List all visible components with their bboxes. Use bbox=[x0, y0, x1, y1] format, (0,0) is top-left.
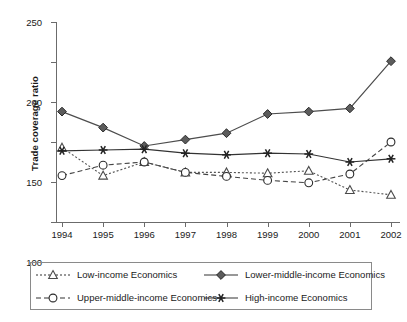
x-tick-label: 2002 bbox=[380, 229, 401, 240]
data-point bbox=[99, 146, 108, 154]
data-point bbox=[222, 151, 231, 159]
x-tick-label: 1997 bbox=[175, 229, 196, 240]
circle-open-icon bbox=[35, 291, 71, 305]
diamond-filled-icon bbox=[203, 268, 239, 282]
legend-label: Lower-middle-income Economics bbox=[245, 269, 385, 280]
legend-item-lower-middle-income-economics[interactable]: Lower-middle-income Economics bbox=[199, 268, 373, 282]
data-point bbox=[217, 270, 226, 279]
data-point bbox=[181, 149, 190, 157]
x-tick-label: 1999 bbox=[257, 229, 278, 240]
plot-area: 050100150200250 199419951996199719981999… bbox=[56, 22, 399, 222]
x-tick-label: 1995 bbox=[93, 229, 114, 240]
data-point bbox=[304, 107, 313, 116]
data-point bbox=[305, 179, 313, 187]
x-tick-label: 1996 bbox=[134, 229, 155, 240]
y-tick-label: 200 bbox=[26, 97, 42, 108]
legend-item-low-income-economics[interactable]: Low-income Economics bbox=[31, 268, 199, 282]
x-tick-label: 1998 bbox=[216, 229, 237, 240]
data-point bbox=[263, 110, 272, 119]
data-point bbox=[140, 158, 148, 166]
data-point bbox=[181, 169, 189, 177]
y-tick-label: 250 bbox=[26, 17, 42, 28]
data-point bbox=[263, 149, 272, 157]
data-point bbox=[304, 150, 313, 158]
data-point bbox=[345, 158, 354, 166]
data-point bbox=[346, 186, 355, 194]
legend-label: Low-income Economics bbox=[77, 269, 177, 280]
data-point bbox=[387, 155, 396, 163]
data-point bbox=[346, 170, 354, 178]
series-layer bbox=[56, 22, 399, 223]
data-point bbox=[99, 123, 108, 132]
data-point bbox=[181, 135, 190, 144]
legend-label: High-income Economics bbox=[245, 292, 347, 303]
data-point bbox=[223, 173, 231, 181]
triangle-open-icon bbox=[35, 268, 71, 282]
data-point bbox=[58, 107, 67, 116]
data-point bbox=[99, 161, 107, 169]
chart-legend: Low-income EconomicsLower-middle-income … bbox=[30, 262, 372, 310]
legend-label: Upper-middle-income Economics bbox=[77, 292, 217, 303]
data-point bbox=[304, 166, 313, 174]
data-point bbox=[387, 138, 395, 146]
data-point bbox=[387, 190, 396, 198]
legend-item-high-income-economics[interactable]: High-income Economics bbox=[199, 291, 373, 305]
asterisk-icon bbox=[203, 291, 239, 305]
y-tick-label: 150 bbox=[26, 177, 42, 188]
data-point bbox=[58, 172, 66, 180]
trade-coverage-ratio-chart: Trade coverage ratio 050100150200250 199… bbox=[0, 0, 407, 322]
data-point bbox=[264, 177, 272, 185]
x-tick-label: 2001 bbox=[339, 229, 360, 240]
x-tick-label: 2000 bbox=[298, 229, 319, 240]
data-point bbox=[222, 129, 231, 138]
legend-item-upper-middle-income-economics[interactable]: Upper-middle-income Economics bbox=[31, 291, 199, 305]
data-point bbox=[217, 294, 226, 302]
data-point bbox=[49, 294, 57, 302]
x-tick-label: 1994 bbox=[51, 229, 72, 240]
